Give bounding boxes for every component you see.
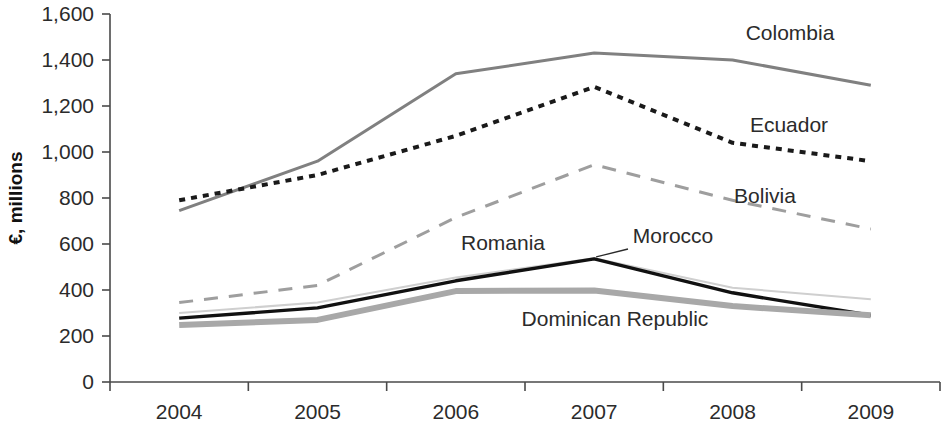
- series-label-bolivia: Bolivia: [734, 184, 796, 207]
- y-tick-label: 200: [59, 324, 94, 347]
- series-label-ecuador: Ecuador: [750, 113, 828, 136]
- y-tick-label: 600: [59, 232, 94, 255]
- x-tick-label: 2004: [156, 400, 203, 423]
- chart-canvas: ColombiaEcuadorBoliviaRomaniaMoroccoDomi…: [0, 0, 945, 429]
- line-chart: ColombiaEcuadorBoliviaRomaniaMoroccoDomi…: [0, 0, 945, 429]
- axes: [102, 14, 940, 391]
- x-tick-label: 2005: [294, 400, 341, 423]
- x-tick-label: 2008: [709, 400, 756, 423]
- series-label-dominican-republic: Dominican Republic: [522, 307, 709, 330]
- series-label-colombia: Colombia: [746, 21, 835, 44]
- y-tick-label: 1,200: [41, 94, 94, 117]
- y-tick-label: 1,400: [41, 48, 94, 71]
- series-label-romania: Romania: [461, 231, 545, 254]
- x-tick-label: 2009: [847, 400, 894, 423]
- y-axis-title: €, millions: [5, 152, 26, 245]
- x-tick-label: 2006: [432, 400, 479, 423]
- y-tick-label: 800: [59, 186, 94, 209]
- y-tick-label: 1,600: [41, 2, 94, 25]
- series-label-morocco: Morocco: [633, 224, 714, 247]
- y-tick-label: 1,000: [41, 140, 94, 163]
- y-tick-label: 400: [59, 278, 94, 301]
- morocco-leader-line: [596, 249, 628, 257]
- y-tick-label: 0: [82, 370, 94, 393]
- series-line-romania: [179, 258, 871, 313]
- x-tick-label: 2007: [571, 400, 618, 423]
